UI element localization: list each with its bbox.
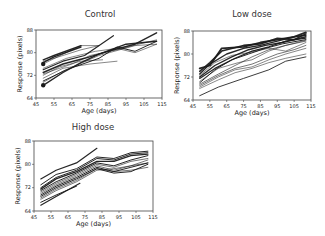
panel-high-dose: High dose 45556575859510511564728088Age …	[14, 122, 158, 228]
panel-title-control: Control	[85, 9, 116, 19]
y-tick-label: 64	[25, 208, 31, 214]
data-marker	[41, 62, 45, 66]
x-tick-label: 55	[51, 101, 57, 107]
x-tick-label: 75	[87, 101, 93, 107]
y-tick-label: 72	[27, 72, 33, 78]
panel-title-low-dose: Low dose	[232, 9, 272, 19]
x-tick-label: 45	[31, 214, 37, 220]
panel-low-dose: Low dose 45556575859510511564728088Age (…	[173, 9, 316, 117]
x-tick-label: 105	[289, 103, 299, 109]
series-lines	[41, 33, 157, 88]
x-tick-label: 95	[274, 103, 280, 109]
y-tick-label: 72	[25, 184, 31, 190]
x-tick-label: 105	[131, 214, 141, 220]
x-axis-label: Age (days)	[81, 107, 116, 115]
x-axis-label: Age (days)	[76, 220, 111, 228]
x-tick-label: 65	[69, 101, 75, 107]
series-lines	[41, 148, 148, 205]
x-tick-label: 115	[306, 103, 316, 109]
series-line	[41, 151, 148, 185]
x-tick-label: 85	[105, 101, 111, 107]
plot-frame	[34, 141, 153, 211]
x-tick-label: 95	[116, 214, 122, 220]
x-tick-label: 65	[65, 214, 71, 220]
y-tick-label: 88	[25, 138, 31, 144]
x-tick-label: 75	[240, 103, 246, 109]
x-tick-label: 75	[82, 214, 88, 220]
y-axis-label: Response (pixels)	[14, 147, 22, 204]
series-lines	[200, 32, 306, 95]
y-axis-label: Response (pixels)	[173, 37, 181, 94]
y-tick-label: 88	[184, 28, 190, 34]
x-tick-label: 95	[123, 101, 129, 107]
panel-control: Control 45556575859510511564728088Age (d…	[16, 9, 167, 115]
x-tick-label: 55	[207, 103, 213, 109]
x-axis-label: Age (days)	[234, 109, 269, 117]
panel-title-high-dose: High dose	[72, 122, 115, 132]
x-tick-label: 45	[190, 103, 196, 109]
data-marker	[41, 83, 45, 87]
y-tick-label: 88	[27, 27, 33, 33]
x-tick-label: 115	[148, 214, 158, 220]
x-tick-label: 105	[139, 101, 149, 107]
x-tick-label: 85	[257, 103, 263, 109]
x-tick-label: 85	[99, 214, 105, 220]
y-tick-label: 80	[25, 161, 31, 167]
y-axis-label: Response (pixels)	[16, 35, 24, 92]
y-tick-label: 72	[184, 74, 190, 80]
x-tick-label: 45	[33, 101, 39, 107]
x-tick-label: 65	[224, 103, 230, 109]
y-tick-label: 64	[27, 95, 33, 101]
y-tick-label: 80	[184, 51, 190, 57]
y-tick-label: 64	[184, 97, 190, 103]
x-tick-label: 55	[48, 214, 54, 220]
series-line	[200, 57, 306, 96]
figure-canvas: Control 45556575859510511564728088Age (d…	[0, 0, 325, 236]
x-tick-label: 115	[157, 101, 167, 107]
y-tick-label: 80	[27, 49, 33, 55]
